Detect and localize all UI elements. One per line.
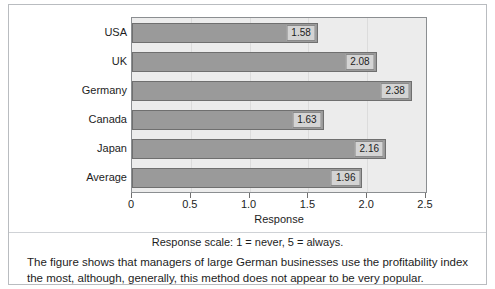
bar-value-label: 1.63 (292, 112, 321, 128)
x-tick-label: 1.0 (241, 198, 256, 211)
chart-panel: USAUKGermanyCanadaJapanAverage 1.582.082… (9, 5, 486, 233)
category-label-usa: USA (15, 22, 127, 42)
x-tick-label: 2.5 (417, 198, 432, 211)
gridline (367, 18, 368, 192)
plot-area: 1.582.082.381.632.161.96 (131, 17, 427, 193)
bar-row: 1.96 (132, 168, 426, 188)
gridline (308, 18, 309, 192)
bar-value-label: 1.58 (286, 25, 315, 41)
x-tick-label: 0 (128, 198, 134, 211)
bar-value-label: 2.16 (355, 141, 384, 157)
category-label-average: Average (15, 167, 127, 187)
x-tick-label: 1.5 (300, 198, 315, 211)
bar-value-label: 1.96 (331, 170, 360, 186)
bar-value-label: 2.38 (380, 83, 409, 99)
x-axis-title: Response (131, 213, 427, 225)
x-tick-label: 0.5 (182, 198, 197, 211)
bar-row: 2.08 (132, 52, 426, 72)
bar (132, 81, 412, 101)
category-axis-labels: USAUKGermanyCanadaJapanAverage (9, 17, 127, 193)
gridline (191, 18, 192, 192)
figure-caption: The figure shows that managers of large … (27, 254, 473, 286)
bar-row: 2.16 (132, 139, 426, 159)
bar (132, 139, 386, 159)
bar-value-label: 2.08 (345, 54, 374, 70)
bar-row: 2.38 (132, 81, 426, 101)
response-scale-note: Response scale: 1 = never, 5 = always. (9, 235, 486, 249)
category-label-uk: UK (15, 51, 127, 71)
category-label-germany: Germany (15, 80, 127, 100)
figure-container: USAUKGermanyCanadaJapanAverage 1.582.082… (8, 4, 487, 285)
bar (132, 168, 362, 188)
x-tick-label: 2.0 (359, 198, 374, 211)
category-label-japan: Japan (15, 138, 127, 158)
bar-row: 1.58 (132, 23, 426, 43)
x-axis-tick-labels: 00.51.01.52.02.5 (131, 198, 427, 212)
bar (132, 52, 377, 72)
gridline (250, 18, 251, 192)
bar-row: 1.63 (132, 110, 426, 130)
category-label-canada: Canada (15, 109, 127, 129)
